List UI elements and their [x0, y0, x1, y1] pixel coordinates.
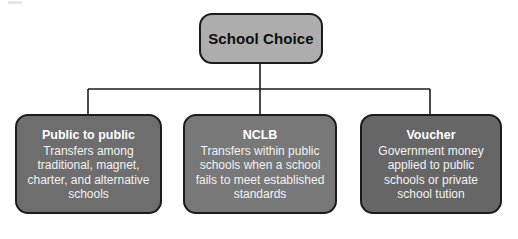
node-nclb-title: NCLB — [243, 128, 278, 143]
node-public-to-public[interactable]: Public to public Transfers among traditi… — [15, 114, 162, 214]
node-public-to-public-description: Transfers among traditional, magnet, cha… — [23, 144, 154, 202]
node-voucher-description: Government money applied to public schoo… — [368, 144, 494, 202]
node-public-to-public-title: Public to public — [42, 128, 135, 143]
node-school-choice[interactable]: School Choice — [199, 13, 323, 64]
scan-artifact — [8, 1, 22, 4]
node-nclb[interactable]: NCLB Transfers within public schools whe… — [183, 114, 337, 214]
node-voucher-title: Voucher — [406, 128, 455, 143]
node-school-choice-title: School Choice — [208, 30, 313, 47]
node-voucher[interactable]: Voucher Government money applied to publ… — [360, 114, 502, 214]
node-nclb-description: Transfers within public schools when a s… — [191, 144, 329, 202]
school-choice-diagram: School Choice Public to public Transfers… — [0, 0, 518, 239]
